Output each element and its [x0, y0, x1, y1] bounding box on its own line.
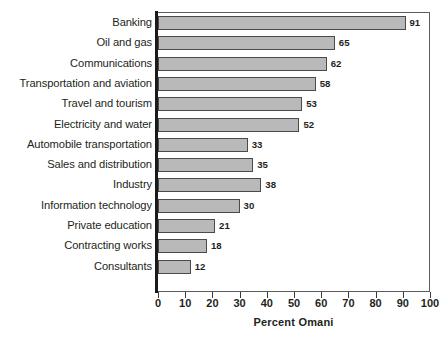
category-label: Travel and tourism [62, 93, 152, 113]
category-label: Oil and gas [97, 32, 153, 52]
bar-row: 38 [158, 175, 430, 195]
category-label: Automobile transportation [27, 134, 152, 154]
bar [158, 118, 299, 132]
bar-value-label: 52 [303, 118, 314, 132]
bar-row: 30 [158, 196, 430, 216]
x-axis-title: Percent Omani [157, 316, 430, 328]
bar [158, 158, 253, 172]
bar [158, 97, 302, 111]
category-label: Electricity and water [54, 114, 152, 134]
category-label: Banking [112, 12, 152, 32]
bar-value-label: 38 [265, 178, 276, 192]
category-label: Information technology [41, 195, 152, 215]
bar [158, 16, 406, 30]
bar-row: 21 [158, 216, 430, 236]
bar-value-label: 35 [257, 158, 268, 172]
category-label: Private education [67, 215, 152, 235]
x-tick-label: 100 [410, 297, 447, 309]
bar-row: 53 [158, 94, 430, 114]
bar [158, 219, 215, 233]
bar [158, 36, 335, 50]
bar [158, 138, 248, 152]
bar-row: 65 [158, 33, 430, 53]
bar-value-label: 18 [211, 239, 222, 253]
bar-value-label: 65 [339, 36, 350, 50]
bar-row: 18 [158, 236, 430, 256]
bar-value-label: 62 [331, 57, 342, 71]
category-label: Consultants [94, 256, 152, 276]
bar-value-label: 12 [195, 260, 206, 274]
category-label: Contracting works [64, 235, 152, 255]
bar [158, 260, 191, 274]
bar-value-label: 91 [410, 16, 421, 30]
bar-row: 52 [158, 115, 430, 135]
bar-value-label: 30 [244, 199, 255, 213]
bar-row: 62 [158, 54, 430, 74]
bar-row: 58 [158, 74, 430, 94]
x-axis-tick-labels: 0102030405060708090100 [157, 297, 430, 311]
bar-value-label: 33 [252, 138, 263, 152]
bar-row: 91 [158, 13, 430, 33]
bar-chart: BankingOil and gasCommunicationsTranspor… [0, 0, 447, 339]
category-label: Transportation and aviation [20, 73, 152, 93]
bar [158, 199, 240, 213]
category-label: Industry [113, 174, 152, 194]
bar [158, 178, 261, 192]
bar-row: 33 [158, 135, 430, 155]
bar [158, 57, 327, 71]
category-axis-labels: BankingOil and gasCommunicationsTranspor… [0, 12, 152, 292]
bar-row: 12 [158, 257, 430, 277]
bar-value-label: 21 [219, 219, 230, 233]
category-label: Sales and distribution [47, 154, 152, 174]
bar-row: 35 [158, 155, 430, 175]
bar [158, 77, 316, 91]
category-label: Communications [70, 53, 152, 73]
bar-value-label: 53 [306, 97, 317, 111]
bar [158, 239, 207, 253]
bar-value-label: 58 [320, 77, 331, 91]
bar-series: 91656258535233353830211812 [158, 13, 430, 291]
